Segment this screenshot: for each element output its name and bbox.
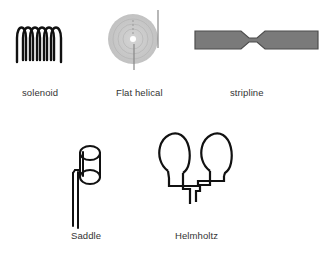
flat-helical-coil-figure — [104, 6, 164, 74]
solenoid-coil-figure — [12, 22, 68, 66]
saddle-coil-figure — [64, 140, 108, 232]
helmholtz-label: Helmholtz — [175, 230, 218, 241]
solenoid-coil-icon — [12, 22, 68, 66]
stripline-label: stripline — [230, 87, 264, 98]
stripline-icon — [193, 28, 321, 52]
solenoid-label: solenoid — [22, 87, 58, 98]
stripline-figure — [193, 28, 321, 52]
saddle-coil-icon — [64, 140, 108, 232]
saddle-label: Saddle — [71, 230, 101, 241]
helmholtz-coil-icon — [156, 131, 238, 211]
flat-helical-disc-icon — [104, 6, 164, 74]
helmholtz-coil-figure — [156, 131, 238, 211]
flat-helical-label: Flat helical — [116, 87, 163, 98]
